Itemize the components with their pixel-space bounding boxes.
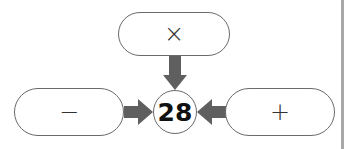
divider-line (341, 0, 344, 149)
center-number-circle: 28 (153, 90, 197, 134)
arrow-left-icon (197, 99, 226, 125)
center-number: 28 (158, 98, 193, 127)
operator-minus-box: − (14, 88, 124, 136)
arrow-right-icon (124, 99, 153, 125)
plus-operator: + (270, 98, 290, 126)
operator-times-box: × (118, 12, 230, 56)
operator-plus-box: + (225, 88, 335, 136)
times-operator: × (164, 20, 184, 48)
minus-operator: − (59, 98, 79, 126)
arrow-down-icon (163, 56, 187, 90)
